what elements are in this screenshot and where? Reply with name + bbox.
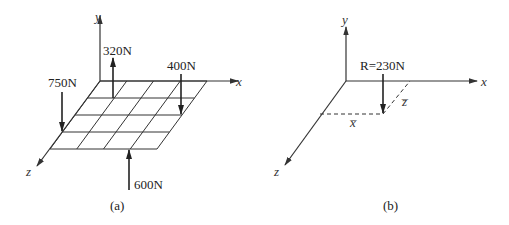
x-axis-label-b: x xyxy=(480,74,487,89)
force-label-320n: 320N xyxy=(103,43,133,58)
y-axis-label-b: y xyxy=(340,12,348,27)
z-axis-label-b: z xyxy=(273,164,279,179)
caption-b: (b) xyxy=(383,198,398,213)
force-label-400n: 400N xyxy=(167,58,197,73)
force-label-750n: 750N xyxy=(48,75,78,90)
zbar-label: z̅ xyxy=(401,94,408,109)
caption-a: (a) xyxy=(110,198,124,213)
force-label-600n: 600N xyxy=(134,177,164,192)
x-axis-label-a: x xyxy=(235,74,242,89)
xbar-label: x̅ xyxy=(349,115,357,130)
diagram-canvas: y x z 320N 400N 750N 600N ( xyxy=(0,0,509,225)
y-axis-label-a: y xyxy=(93,9,101,24)
panel-a: y x z 320N 400N 750N 600N ( xyxy=(25,9,242,213)
z-axis-b xyxy=(285,81,346,165)
plate-grid xyxy=(50,81,207,149)
panel-b: y x z x̅ z̅ R=230N (b) xyxy=(273,12,487,213)
resultant-label: R=230N xyxy=(360,58,406,73)
z-axis-label-a: z xyxy=(25,164,31,179)
